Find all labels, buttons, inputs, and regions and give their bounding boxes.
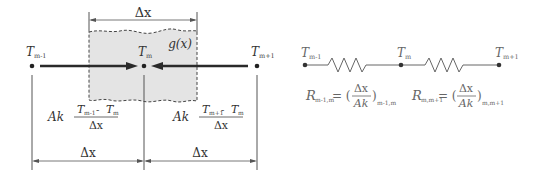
svg-text:m: m xyxy=(405,53,411,61)
resistance-formula-1: R m-1,m = ( Δx Ak ) m-1,m xyxy=(305,82,396,110)
circuit-node-m-plus-1 xyxy=(497,63,502,68)
circuit-label-m-minus-1: T m-1 xyxy=(301,46,322,61)
svg-text:m: m xyxy=(146,52,152,60)
spacing-label-left: Δx xyxy=(80,146,96,160)
svg-text:-: - xyxy=(221,104,224,115)
svg-text:Ak: Ak xyxy=(172,110,189,124)
arrowhead-right-icon xyxy=(250,159,257,163)
thermal-resistance-network: T m-1 T m T m+1 R m-1,m = ( Δx Ak ) m-1,… xyxy=(301,46,519,110)
svg-text:m-1: m-1 xyxy=(309,53,322,61)
svg-text:m-1: m-1 xyxy=(34,52,47,60)
svg-text:= (: = ( xyxy=(332,89,351,103)
resistor-2-icon xyxy=(425,58,467,72)
svg-text:Ak: Ak xyxy=(353,97,369,110)
svg-text:Δx: Δx xyxy=(89,119,104,132)
volume-element-diagram: Δx g(x) T m-1 T m T m+1 Ak xyxy=(26,5,275,170)
svg-text:m: m xyxy=(238,109,244,116)
resistance-formula-2: R m,m+1 = ( Δx Ak ) m,m+1 xyxy=(411,82,504,110)
svg-text:m-1: m-1 xyxy=(84,109,96,116)
flux-expression-left: Ak T m-1 - T m Δx xyxy=(47,103,119,132)
arrowhead-right-icon xyxy=(190,18,197,22)
spacing-label-right: Δx xyxy=(192,146,208,160)
arrowhead-right-icon xyxy=(137,159,144,163)
arrowhead-left-icon xyxy=(144,159,151,163)
heat-conduction-diagram: Δx g(x) T m-1 T m T m+1 Ak xyxy=(0,0,537,182)
svg-text:): ) xyxy=(477,89,482,103)
circuit-label-m: T m xyxy=(397,46,411,61)
circuit-node-m-minus-1 xyxy=(303,63,308,68)
svg-text:Δx: Δx xyxy=(459,82,474,95)
svg-text:m+1: m+1 xyxy=(503,53,519,61)
arrowhead-left-icon xyxy=(32,159,39,163)
resistor-1-icon xyxy=(328,58,370,72)
svg-text:Ak: Ak xyxy=(458,97,474,110)
svg-text:Ak: Ak xyxy=(47,110,64,124)
svg-text:m+1: m+1 xyxy=(259,52,275,60)
svg-text:m: m xyxy=(113,109,119,116)
arrowhead-left-icon xyxy=(89,18,96,22)
circuit-label-m-plus-1: T m+1 xyxy=(495,46,519,61)
flux-expression-right: Ak T m+1 - T m Δx xyxy=(172,103,244,132)
region-width-label: Δx xyxy=(135,5,152,20)
svg-text:= (: = ( xyxy=(438,89,457,103)
generation-label: g(x) xyxy=(168,37,192,51)
node-m xyxy=(142,64,147,69)
svg-text:m,m+1: m,m+1 xyxy=(482,99,504,106)
circuit-node-m xyxy=(399,63,404,68)
svg-text:Δx: Δx xyxy=(214,119,229,132)
svg-text:-: - xyxy=(96,104,99,115)
svg-text:): ) xyxy=(372,89,377,103)
node-label-m-plus-1: T m+1 xyxy=(251,45,275,60)
node-m-plus-1 xyxy=(255,64,260,69)
node-m-minus-1 xyxy=(30,64,35,69)
node-label-m-minus-1: T m-1 xyxy=(26,45,47,60)
svg-text:Δx: Δx xyxy=(354,82,369,95)
svg-text:m-1,m: m-1,m xyxy=(377,99,396,106)
